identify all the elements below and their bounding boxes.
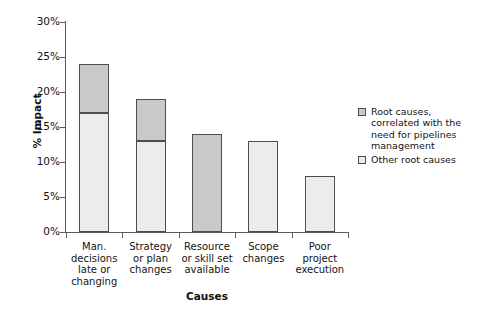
- y-axis-tick: [60, 92, 65, 93]
- x-axis-category-label-line: changes: [235, 253, 291, 265]
- x-axis-category-label-line: changes: [122, 264, 178, 276]
- x-axis-category-label-line: Resource: [179, 241, 235, 253]
- legend-item[interactable]: Root causes, correlated with the need fo…: [358, 106, 478, 152]
- legend-item[interactable]: Other root causes: [358, 154, 478, 165]
- x-axis-category-label-line: project: [292, 253, 348, 265]
- x-axis-category-label-line: changing: [66, 276, 122, 288]
- x-axis-category-label-line: available: [179, 264, 235, 276]
- x-axis-title: Causes: [66, 290, 348, 302]
- chart-legend: Root causes, correlated with the need fo…: [358, 106, 478, 167]
- legend-item-label: Root causes, correlated with the need fo…: [371, 106, 478, 152]
- x-axis-category-label-line: execution: [292, 264, 348, 276]
- y-axis-title: % Impact: [31, 71, 43, 171]
- y-axis-tick: [60, 197, 65, 198]
- y-axis-tick: [60, 127, 65, 128]
- x-axis-category-label-line: Man.: [66, 241, 122, 253]
- x-axis-category-label-line: Poor: [292, 241, 348, 253]
- x-axis-category-label-line: decisions: [66, 253, 122, 265]
- y-axis-tick: [60, 162, 65, 163]
- y-axis-tick-label: 5%: [12, 191, 60, 202]
- x-axis-category-label-line: or plan: [122, 253, 178, 265]
- bar-segment[interactable]: [192, 134, 222, 232]
- y-axis-tick: [60, 22, 65, 23]
- x-axis-tick: [66, 233, 67, 238]
- bar-segment[interactable]: [248, 141, 278, 232]
- x-axis-category-label-line: late or: [66, 264, 122, 276]
- bar-group[interactable]: [248, 22, 278, 232]
- x-axis-tick: [292, 233, 293, 238]
- bar-group[interactable]: [192, 22, 222, 232]
- x-axis-category-label-line: Strategy: [122, 241, 178, 253]
- y-axis-tick: [60, 57, 65, 58]
- x-axis-category-label: Resourceor skill setavailable: [179, 241, 235, 276]
- x-axis-category-label: Man.decisionslate orchanging: [66, 241, 122, 287]
- bar-group[interactable]: [305, 22, 335, 232]
- x-axis-tick: [122, 233, 123, 238]
- x-axis-category-label: Poorprojectexecution: [292, 241, 348, 276]
- bar-segment[interactable]: [305, 176, 335, 232]
- bar-segment[interactable]: [79, 64, 109, 113]
- x-axis-tick: [179, 233, 180, 238]
- x-axis-category-label-line: Scope: [235, 241, 291, 253]
- x-axis-category-label-line: or skill set: [179, 253, 235, 265]
- legend-swatch-icon: [358, 156, 366, 164]
- y-axis-tick-label: 25%: [12, 51, 60, 62]
- x-axis-tick: [235, 233, 236, 238]
- bar-group[interactable]: [136, 22, 166, 232]
- x-axis-line: [65, 232, 349, 233]
- y-axis-tick-label: 0%: [12, 226, 60, 237]
- bar-segment[interactable]: [136, 141, 166, 232]
- y-axis-tick-label: 30%: [12, 16, 60, 27]
- x-axis-category-label: Strategyor planchanges: [122, 241, 178, 276]
- legend-item-label: Other root causes: [371, 154, 478, 165]
- bar-group[interactable]: [79, 22, 109, 232]
- bar-chart: 30%25%20%15%10%5%0% % Impact Man.decisio…: [0, 0, 480, 317]
- legend-swatch-icon: [358, 108, 366, 116]
- bar-segment[interactable]: [79, 113, 109, 232]
- x-axis-category-label: Scopechanges: [235, 241, 291, 264]
- x-axis-tick: [348, 233, 349, 238]
- bar-segment[interactable]: [136, 99, 166, 141]
- plot-area: [66, 22, 348, 232]
